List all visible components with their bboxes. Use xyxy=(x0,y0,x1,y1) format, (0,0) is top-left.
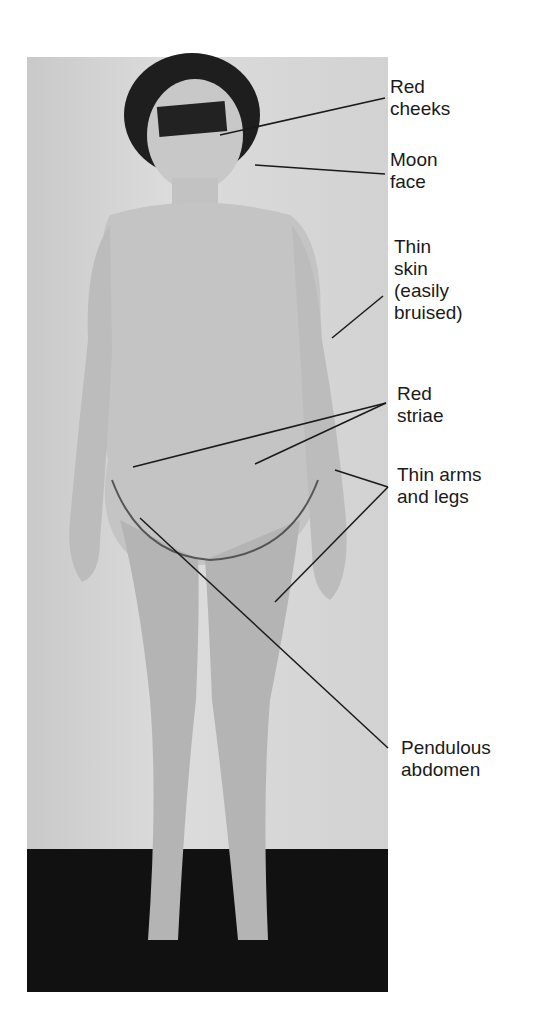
label-moon-face: Moon face xyxy=(390,149,438,193)
label-red-cheeks: Red cheeks xyxy=(390,76,450,120)
label-red-striae: Red striae xyxy=(397,383,443,427)
eye-cover-bar xyxy=(157,101,227,137)
leader-thin-arms xyxy=(335,470,388,487)
torso xyxy=(101,203,325,566)
label-thin-skin: Thin skin (easily bruised) xyxy=(394,236,463,324)
left-arm xyxy=(69,225,112,582)
label-pendulous-abdomen: Pendulous abdomen xyxy=(401,737,491,781)
label-thin-arms-legs: Thin arms and legs xyxy=(397,464,481,508)
leader-moon-face xyxy=(255,165,385,174)
right-leg xyxy=(205,520,300,940)
left-leg xyxy=(120,520,199,940)
leader-thin-skin xyxy=(332,296,383,338)
